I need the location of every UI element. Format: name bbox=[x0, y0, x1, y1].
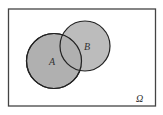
venn-diagram: A B Ω bbox=[0, 0, 163, 115]
universe-label: Ω bbox=[136, 93, 143, 104]
set-a-label: A bbox=[48, 56, 56, 67]
set-b-label: B bbox=[84, 41, 90, 52]
